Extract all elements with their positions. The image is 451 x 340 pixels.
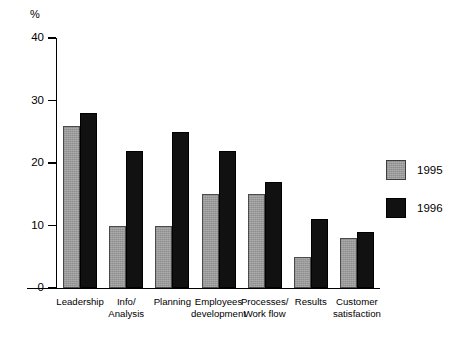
- legend-item-1995: 1995: [386, 160, 443, 180]
- y-axis-tick: [48, 100, 56, 101]
- bar-chart: % 010203040 LeadershipInfo/AnalysisPlann…: [0, 0, 451, 340]
- y-axis-tick: [48, 225, 56, 226]
- bar-1996-6: [357, 232, 374, 288]
- bar-1996-1: [126, 151, 143, 289]
- bar-1995-3: [202, 194, 219, 288]
- bar-1996-0: [80, 113, 97, 288]
- legend-item-1996: 1996: [386, 198, 443, 218]
- y-axis-unit-label: %: [30, 8, 40, 20]
- y-axis-tick-label: 0: [14, 281, 44, 293]
- legend-label-1995: 1995: [417, 164, 443, 176]
- bar-1995-0: [63, 126, 80, 289]
- plot-area: [57, 38, 380, 288]
- y-axis-tick: [48, 287, 56, 288]
- y-axis-tick-label: 30: [14, 94, 44, 106]
- y-axis-tick: [48, 37, 56, 38]
- category-label: Customersatisfaction: [322, 296, 392, 319]
- x-axis-line: [27, 288, 380, 289]
- y-axis-tick: [48, 162, 56, 163]
- bar-1995-2: [155, 226, 172, 289]
- legend-swatch-1995: [386, 160, 406, 180]
- bar-1996-2: [172, 132, 189, 288]
- bar-1995-5: [294, 257, 311, 288]
- bar-1995-4: [248, 194, 265, 288]
- bar-1995-6: [340, 238, 357, 288]
- bar-1996-4: [265, 182, 282, 288]
- y-axis-tick-label: 10: [14, 219, 44, 231]
- legend-swatch-1996: [386, 198, 406, 218]
- bar-1996-5: [311, 219, 328, 288]
- y-axis-tick-label: 20: [14, 156, 44, 168]
- bar-1996-3: [219, 151, 236, 289]
- legend-label-1996: 1996: [417, 202, 443, 214]
- bar-1995-1: [109, 226, 126, 289]
- y-axis-tick-label: 40: [14, 31, 44, 43]
